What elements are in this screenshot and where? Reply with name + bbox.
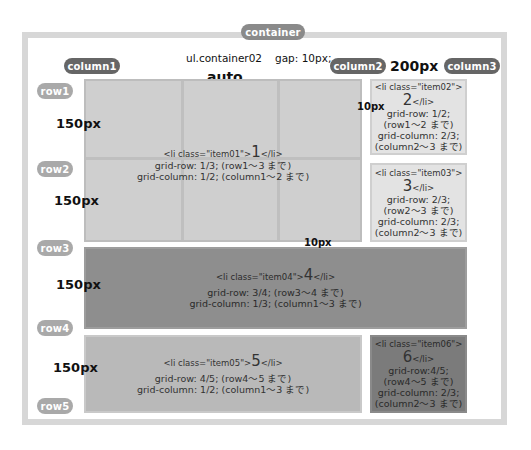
item05-tag-open: <li class="item05"> — [163, 358, 251, 368]
column1-label: column1 — [64, 58, 120, 74]
grid-item-06: <li class="item06"> 6</li> grid-row:4/5;… — [370, 335, 467, 413]
item06-line: grid-column: 2/3; — [378, 387, 460, 398]
row2-label: row2 — [37, 161, 73, 177]
item05-tag-close: </li> — [261, 358, 283, 368]
item05-line: grid-column: 1/2; (column1〜3 まで) — [137, 384, 309, 395]
row3-height-label: 150px — [56, 277, 101, 292]
item01-number: 1 — [251, 143, 261, 161]
item01-tag-close: </li> — [261, 149, 283, 159]
item05-number: 5 — [251, 352, 261, 370]
gap-label: gap: 10px; — [275, 52, 331, 64]
row4-label: row4 — [37, 320, 73, 336]
row1-height-label: 150px — [56, 116, 101, 131]
selector-label: ul.container02 — [186, 52, 262, 64]
item05-line: grid-row: 4/5; (row4〜5 まで) — [155, 373, 291, 384]
grid-item-01: <li class="item01">1</li> grid-row: 1/3;… — [84, 79, 362, 242]
column2-label: column2 — [330, 58, 386, 74]
item01-line: grid-row: 1/3; (row1〜3 まで) — [137, 160, 309, 171]
item01-tag-open: <li class="item01"> — [163, 149, 251, 159]
item04-number: 4 — [304, 266, 314, 284]
grid-item-05: <li class="item05">5</li> grid-row: 4/5;… — [84, 335, 362, 413]
item04-tag-open: <li class="item04"> — [216, 272, 304, 282]
item02-line: grid-row: 1/2; — [387, 108, 451, 119]
row3-label: row3 — [37, 240, 73, 256]
container-label: container — [241, 24, 305, 40]
item04-line: grid-row: 3/4; (row3〜4 まで) — [207, 287, 343, 298]
item01-text: <li class="item01">1</li> grid-row: 1/3;… — [137, 145, 309, 182]
item06-tag-open: <li class="item06"> — [375, 339, 463, 350]
item03-line: (row2〜3 まで) — [384, 205, 454, 216]
item02-line: grid-column: 2/3; — [378, 130, 460, 141]
row4-height-label: 150px — [53, 360, 98, 375]
item03-number: 3 — [403, 177, 413, 195]
item06-line: grid-row:4/5; — [388, 365, 448, 376]
column-gap-label: 10px — [357, 101, 385, 112]
item03-tag-close: </li> — [412, 183, 434, 193]
item02-line: (row1〜2 まで) — [384, 119, 454, 130]
item06-line: (column2〜3 まで) — [375, 398, 463, 409]
row2-height-label: 150px — [54, 193, 99, 208]
row1-label: row1 — [37, 83, 73, 99]
grid-item-03: <li class="item03"> 3</li> grid-row: 2/3… — [370, 163, 467, 242]
item02-tag-close: </li> — [412, 97, 434, 107]
item04-line: grid-column: 1/3; (column1〜3 まで) — [189, 298, 361, 309]
row-gap-label: 10px — [304, 237, 332, 248]
item02-line: (column2〜3 まで) — [375, 141, 463, 152]
row5-label: row5 — [37, 398, 73, 414]
item02-tag-open: <li class="item02"> — [375, 82, 463, 93]
item03-tag-open: <li class="item03"> — [375, 168, 463, 179]
item03-line: (column2〜3 まで) — [375, 227, 463, 238]
column3-label: column3 — [444, 58, 500, 74]
grid-item-04: <li class="item04">4</li> grid-row: 3/4;… — [84, 247, 467, 329]
item01-line: grid-column: 1/2; (column1〜2 まで) — [137, 171, 309, 182]
item06-line: (row4〜5 まで) — [384, 376, 454, 387]
item02-number: 2 — [403, 91, 413, 109]
item03-line: grid-column: 2/3; — [378, 216, 460, 227]
item06-number: 6 — [403, 348, 413, 366]
column-width-200px: 200px — [390, 58, 438, 74]
item03-line: grid-row: 2/3; — [387, 194, 451, 205]
item06-tag-close: </li> — [412, 354, 434, 364]
grid-item-02: <li class="item02"> 2</li> grid-row: 1/2… — [370, 79, 467, 155]
item04-tag-close: </li> — [313, 272, 335, 282]
